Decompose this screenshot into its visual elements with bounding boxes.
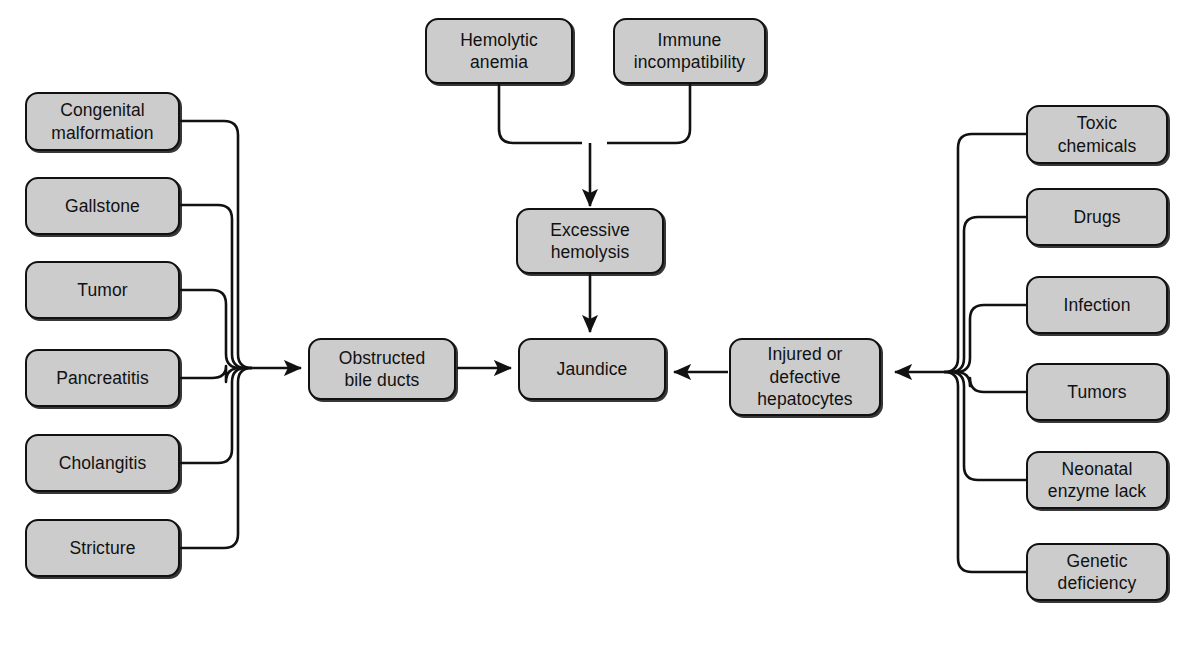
node-congenital-malformation[interactable]: Congenital malformation: [25, 92, 180, 151]
node-excessive-hemolysis-label: Excessive hemolysis: [544, 219, 636, 264]
node-pancreatitis-label: Pancreatitis: [50, 367, 155, 389]
node-gallstone-label: Gallstone: [59, 195, 146, 217]
node-infection[interactable]: Infection: [1026, 276, 1168, 334]
edge-immune-incompatibility-to-merge: [607, 84, 690, 143]
edge-tumors-to-bus: [956, 372, 1026, 392]
edge-tumor-to-bus: [180, 290, 240, 368]
node-toxic-chemicals-label: Toxic chemicals: [1052, 112, 1143, 157]
node-stricture-label: Stricture: [63, 537, 141, 559]
edge-hemolytic-anemia-to-merge: [499, 84, 582, 143]
node-gallstone[interactable]: Gallstone: [25, 177, 180, 235]
node-neonatal-enzyme-lack-label: Neonatal enzyme lack: [1042, 458, 1152, 503]
edge-toxic-chemicals-to-bus: [944, 134, 1026, 372]
node-neonatal-enzyme-lack[interactable]: Neonatal enzyme lack: [1026, 451, 1168, 509]
edge-genetic-deficiency-to-bus: [944, 372, 1026, 572]
node-infection-label: Infection: [1057, 294, 1136, 316]
node-injured-hepatocytes[interactable]: Injured or defective hepatocytes: [729, 338, 881, 416]
node-injured-hepatocytes-label: Injured or defective hepatocytes: [751, 343, 858, 410]
edge-pancreatitis-to-bus: [180, 366, 240, 382]
node-excessive-hemolysis[interactable]: Excessive hemolysis: [516, 208, 664, 274]
node-jaundice[interactable]: Jaundice: [518, 338, 666, 400]
node-cholangitis-label: Cholangitis: [53, 452, 153, 474]
node-jaundice-label: Jaundice: [551, 358, 634, 380]
flowchart-canvas: Hemolytic anemia Immune incompatibility …: [0, 0, 1187, 665]
edge-infection-to-bus: [956, 305, 1026, 372]
node-genetic-deficiency-label: Genetic deficiency: [1052, 550, 1143, 595]
node-tumors[interactable]: Tumors: [1026, 363, 1168, 421]
node-drugs[interactable]: Drugs: [1026, 188, 1168, 246]
node-obstructed-bile-ducts-label: Obstructed bile ducts: [333, 347, 432, 392]
edge-congenital-malformation-to-bus: [180, 121, 252, 368]
node-congenital-malformation-label: Congenital malformation: [45, 99, 159, 144]
node-obstructed-bile-ducts[interactable]: Obstructed bile ducts: [308, 338, 456, 400]
edge-drugs-to-bus: [950, 217, 1026, 372]
node-tumor[interactable]: Tumor: [25, 261, 180, 319]
node-hemolytic-anemia[interactable]: Hemolytic anemia: [425, 18, 573, 84]
node-tumors-label: Tumors: [1061, 381, 1132, 403]
edge-cholangitis-to-bus: [180, 368, 246, 463]
node-immune-incompatibility[interactable]: Immune incompatibility: [613, 18, 766, 84]
edge-gallstone-to-bus: [180, 205, 246, 368]
node-drugs-label: Drugs: [1067, 206, 1126, 228]
edge-stricture-to-bus: [180, 368, 252, 548]
edge-neonatal-enzyme-lack-to-bus: [950, 372, 1026, 480]
node-cholangitis[interactable]: Cholangitis: [25, 434, 180, 492]
node-genetic-deficiency[interactable]: Genetic deficiency: [1026, 543, 1168, 601]
node-immune-incompatibility-label: Immune incompatibility: [628, 29, 751, 74]
node-hemolytic-anemia-label: Hemolytic anemia: [454, 29, 544, 74]
node-tumor-label: Tumor: [71, 279, 133, 301]
node-stricture[interactable]: Stricture: [25, 519, 180, 577]
node-toxic-chemicals[interactable]: Toxic chemicals: [1026, 105, 1168, 164]
node-pancreatitis[interactable]: Pancreatitis: [25, 349, 180, 407]
